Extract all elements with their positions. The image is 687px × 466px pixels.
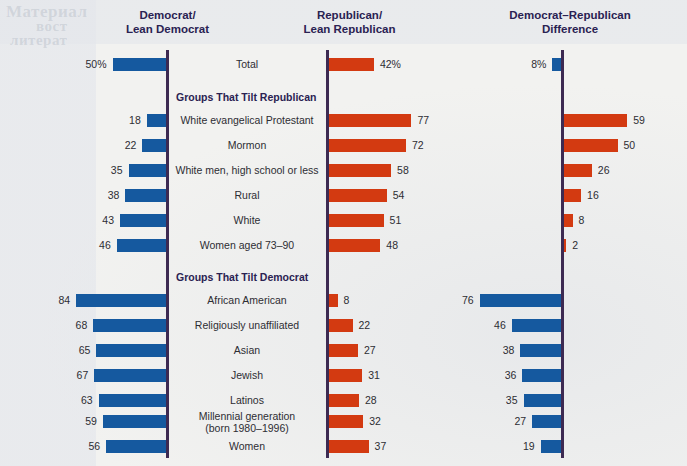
bar-difference-democrat xyxy=(522,369,561,382)
category-label: Asian xyxy=(172,338,322,363)
value-label-republican: 42% xyxy=(380,58,420,71)
value-label-republican: 27 xyxy=(364,344,404,357)
value-label-republican: 48 xyxy=(386,239,426,252)
value-label-difference: 38 xyxy=(476,344,514,357)
value-label-republican: 58 xyxy=(397,164,437,177)
party-identification-chart: Democrat/ Lean Democrat Republican/ Lean… xyxy=(0,0,687,466)
chart-row: 18White evangelical Protestant7759 xyxy=(0,108,687,133)
bar-republican xyxy=(329,344,358,357)
bar-difference-democrat xyxy=(524,394,561,407)
bar-republican xyxy=(329,415,363,428)
bar-democrat xyxy=(129,164,166,177)
bar-republican xyxy=(329,294,338,307)
bar-democrat xyxy=(147,114,166,127)
value-label-democrat: 65 xyxy=(52,344,90,357)
bar-difference-republican xyxy=(564,139,618,152)
value-label-republican: 22 xyxy=(359,319,399,332)
category-label: Total xyxy=(172,52,322,77)
bar-republican xyxy=(329,114,411,127)
section-heading: Groups That Tilt Republican xyxy=(176,85,326,110)
value-label-democrat: 43 xyxy=(76,214,114,227)
value-label-difference: 59 xyxy=(633,114,673,127)
category-label: Mormon xyxy=(172,133,322,158)
value-label-republican: 8 xyxy=(344,294,384,307)
bar-republican xyxy=(329,189,387,202)
category-label: White evangelical Protestant xyxy=(172,108,322,133)
bar-republican xyxy=(329,440,369,453)
category-label: Millennial generation(born 1980–1996) xyxy=(172,409,322,434)
chart-row: 46Women aged 73–90482 xyxy=(0,233,687,258)
value-label-republican: 32 xyxy=(369,415,409,428)
value-label-democrat: 63 xyxy=(55,394,93,407)
value-label-democrat: 35 xyxy=(85,164,123,177)
value-label-republican: 54 xyxy=(393,189,433,202)
column-header-democrat-line2: Lean Democrat xyxy=(80,22,255,36)
bar-republican xyxy=(329,394,359,407)
chart-row: 68Religiously unaffiliated2246 xyxy=(0,313,687,338)
value-label-republican: 77 xyxy=(417,114,457,127)
chart-row: 84African American876 xyxy=(0,288,687,313)
chart-row: 65Asian2738 xyxy=(0,338,687,363)
bar-republican xyxy=(329,58,374,71)
value-label-difference: 8% xyxy=(508,58,546,71)
bar-democrat xyxy=(113,58,167,71)
value-label-democrat: 38 xyxy=(81,189,119,202)
bar-difference-democrat xyxy=(512,319,561,332)
chart-row: 38Rural5416 xyxy=(0,183,687,208)
column-header-republican-line2: Lean Republican xyxy=(262,22,437,36)
column-header-difference-line2: Difference xyxy=(470,22,670,36)
value-label-difference: 19 xyxy=(497,440,535,453)
category-label: White men, high school or less xyxy=(172,158,322,183)
value-label-difference: 35 xyxy=(480,394,518,407)
bar-democrat xyxy=(94,369,166,382)
bar-republican xyxy=(329,319,353,332)
category-label: Women aged 73–90 xyxy=(172,233,322,258)
column-header-difference: Democrat–Republican Difference xyxy=(470,8,670,36)
category-label: Jewish xyxy=(172,363,322,388)
chart-row: 35White men, high school or less5826 xyxy=(0,158,687,183)
bar-difference-democrat xyxy=(552,58,561,71)
category-label: Religiously unaffiliated xyxy=(172,313,322,338)
value-label-difference: 2 xyxy=(572,239,612,252)
chart-row: 22Mormon7250 xyxy=(0,133,687,158)
value-label-republican: 31 xyxy=(368,369,408,382)
value-label-democrat: 46 xyxy=(73,239,111,252)
column-header-republican-line1: Republican/ xyxy=(262,8,437,22)
bar-difference-democrat xyxy=(520,344,561,357)
category-label: Rural xyxy=(172,183,322,208)
bar-difference-republican xyxy=(564,164,592,177)
bar-difference-democrat xyxy=(532,415,561,428)
chart-row: 59Millennial generation(born 1980–1996)3… xyxy=(0,409,687,434)
value-label-democrat: 18 xyxy=(103,114,141,127)
bar-republican xyxy=(329,214,384,227)
bar-difference-republican xyxy=(564,189,581,202)
bar-difference-democrat xyxy=(480,294,561,307)
category-label: African American xyxy=(172,288,322,313)
chart-row: 50%Total42%8% xyxy=(0,52,687,77)
value-label-republican: 72 xyxy=(412,139,452,152)
bar-democrat xyxy=(76,294,166,307)
chart-row: 43White518 xyxy=(0,208,687,233)
bar-democrat xyxy=(117,239,166,252)
section-heading-row: Groups That Tilt Republican xyxy=(0,85,687,110)
category-label: Women xyxy=(172,434,322,459)
value-label-republican: 51 xyxy=(390,214,430,227)
bar-democrat xyxy=(142,139,166,152)
chart-row: 67Jewish3136 xyxy=(0,363,687,388)
bar-democrat xyxy=(103,415,166,428)
bar-republican xyxy=(329,239,380,252)
value-label-democrat: 22 xyxy=(98,139,136,152)
value-label-difference: 16 xyxy=(587,189,627,202)
value-label-republican: 28 xyxy=(365,394,405,407)
bar-difference-democrat xyxy=(541,440,561,453)
value-label-democrat: 50% xyxy=(69,58,107,71)
value-label-democrat: 84 xyxy=(32,294,70,307)
category-label: White xyxy=(172,208,322,233)
chart-row: 56Women3719 xyxy=(0,434,687,459)
bar-democrat xyxy=(125,189,166,202)
bar-republican xyxy=(329,164,391,177)
bar-difference-republican xyxy=(564,214,573,227)
column-header-difference-line1: Democrat–Republican xyxy=(470,8,670,22)
value-label-democrat: 68 xyxy=(49,319,87,332)
bar-republican xyxy=(329,139,406,152)
